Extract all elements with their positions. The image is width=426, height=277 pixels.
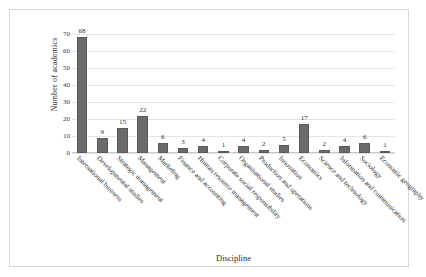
bar-value-label: 4: [242, 137, 246, 144]
plot-area: 68915226341425172461: [72, 34, 395, 153]
bar-rect: [319, 150, 329, 153]
bar-value-label: 22: [139, 107, 146, 114]
y-axis-tick-label: 0: [48, 150, 70, 157]
y-axis-tick-label: 60: [48, 48, 70, 55]
bar[interactable]: 6: [359, 143, 369, 153]
bar[interactable]: 5: [279, 145, 289, 154]
bar-value-label: 17: [301, 115, 308, 122]
bar[interactable]: 9: [97, 138, 107, 153]
bar-value-label: 68: [79, 28, 86, 35]
bar[interactable]: 17: [299, 124, 309, 153]
bar-rect: [299, 124, 309, 153]
figure-frame: Number of academics 010203040506070 6891…: [9, 9, 409, 267]
y-axis-tick-label: 50: [48, 65, 70, 72]
bar-value-label: 2: [323, 141, 327, 148]
bar-rect: [77, 37, 87, 153]
y-axis-tick-label: 30: [48, 99, 70, 106]
bar-rect: [359, 143, 369, 153]
y-axis-tick-label: 20: [48, 116, 70, 123]
bar[interactable]: 1: [218, 151, 228, 153]
y-axis-tick-label: 70: [48, 31, 70, 38]
bar-rect: [137, 116, 147, 153]
bar-value-label: 4: [343, 137, 347, 144]
bar-value-label: 6: [161, 134, 165, 141]
bar-rect: [97, 138, 107, 153]
bar-value-label: 3: [181, 139, 185, 146]
bar-value-label: 4: [201, 137, 205, 144]
x-axis-tick-labels: International businessDevelopmental stud…: [72, 155, 395, 247]
bar[interactable]: 3: [178, 148, 188, 153]
bar-rect: [339, 146, 349, 153]
bar[interactable]: 6: [158, 143, 168, 153]
bar-value-label: 6: [363, 134, 367, 141]
bar[interactable]: 68: [77, 37, 87, 153]
bar[interactable]: 1: [380, 151, 390, 153]
bar-rect: [380, 151, 390, 153]
y-axis-ticks: 010203040506070: [46, 34, 70, 153]
bar-value-label: 1: [383, 142, 387, 149]
bar-rect: [117, 128, 127, 154]
bar[interactable]: 4: [238, 146, 248, 153]
y-axis-tick-label: 10: [48, 133, 70, 140]
bar-rect: [218, 151, 228, 153]
bar-value-label: 2: [262, 141, 266, 148]
bar[interactable]: 22: [137, 116, 147, 153]
y-axis-tick-label: 40: [48, 82, 70, 89]
bar-value-label: 5: [282, 136, 286, 143]
bar[interactable]: 2: [319, 150, 329, 153]
bar-value-label: 9: [101, 129, 105, 136]
bar-rect: [238, 146, 248, 153]
bar-rect: [158, 143, 168, 153]
bar-value-label: 15: [119, 119, 126, 126]
bar-series: 68915226341425172461: [72, 34, 395, 153]
bar[interactable]: 15: [117, 128, 127, 154]
bar-rect: [259, 150, 269, 153]
bar-rect: [198, 146, 208, 153]
bar[interactable]: 2: [259, 150, 269, 153]
bar[interactable]: 4: [198, 146, 208, 153]
bar-rect: [279, 145, 289, 154]
bar[interactable]: 4: [339, 146, 349, 153]
x-axis-title: Discipline: [72, 253, 395, 263]
bar-rect: [178, 148, 188, 153]
bar-value-label: 1: [222, 142, 226, 149]
